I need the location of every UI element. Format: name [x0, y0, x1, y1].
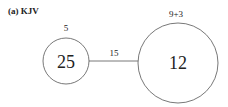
node-left-top-label: 5 [64, 23, 69, 33]
edge-label: 15 [110, 48, 119, 58]
node-left-value: 25 [57, 52, 75, 73]
node-right-top-label: 9+3 [169, 9, 183, 19]
node-right-value: 12 [169, 53, 187, 74]
